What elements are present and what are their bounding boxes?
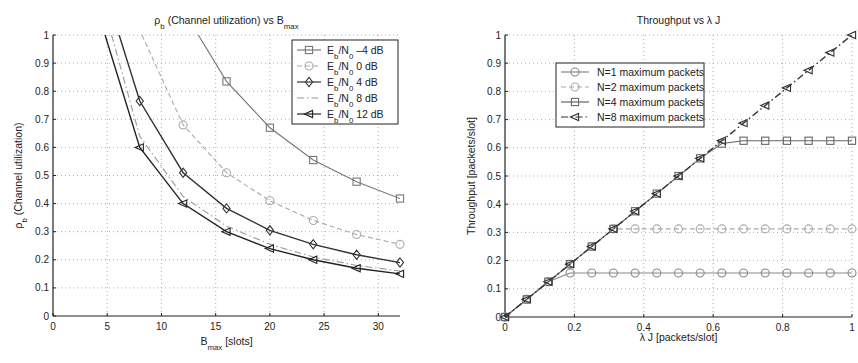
x-tick-label: 1 [849,322,855,333]
y-tick-label: 0.4 [487,199,501,210]
chart-title: Throughput vs λ J [637,14,720,26]
throughput-chart: 00.20.40.60.8100.10.20.30.40.50.60.70.80… [0,0,858,363]
figure: 05101520253000.10.20.30.40.50.60.70.80.9… [0,0,858,363]
triangle-left-marker [847,31,855,38]
triangle-left-marker [826,49,834,56]
y-tick-label: 0.6 [487,142,501,153]
x-axis-label: λ J [packets/slot] [640,331,718,343]
legend-label: N=4 maximum packets [597,96,704,108]
legend-label: N=2 maximum packets [597,81,704,93]
legend: N=1 maximum packetsN=2 maximum packetsN=… [556,63,704,127]
y-tick-label: 0.5 [487,171,501,182]
y-tick-label: 0.3 [487,227,501,238]
x-tick-label: 0.8 [776,322,790,333]
y-tick-label: 0.1 [487,283,501,294]
legend-label: N=1 maximum packets [597,66,704,78]
x-tick-label: 0.2 [567,322,581,333]
y-tick-label: 0.7 [487,114,501,125]
y-axis-label: Throughput [packets/slot] [465,117,477,235]
y-tick-label: 1 [495,30,501,41]
legend-label: N=8 maximum packets [597,111,704,123]
y-tick-label: 0.9 [487,58,501,69]
y-tick-label: 0.8 [487,86,501,97]
series-line-0 [505,273,852,317]
y-tick-label: 0.2 [487,255,501,266]
x-tick-label: 0 [502,322,508,333]
